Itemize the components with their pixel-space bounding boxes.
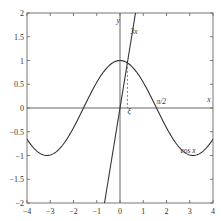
y-tick-label: −1.5 [9, 175, 24, 184]
x-tick-label: −1 [92, 207, 101, 216]
y-tick-label: 1 [20, 57, 24, 66]
x-tick-label: 1 [141, 207, 145, 216]
y-tick-label: −2 [15, 199, 24, 208]
x-tick-label: −2 [69, 207, 78, 216]
x-tick-label: 4 [211, 207, 215, 216]
x-tick-label: −3 [46, 207, 55, 216]
chart-canvas: −4−3−2−101234−2−1.5−1−0.500.511.52ξπ/23x… [0, 0, 222, 221]
x-tick-label: 0 [118, 207, 122, 216]
x-tick-label: −4 [23, 207, 32, 216]
y-tick-label: 0.5 [14, 80, 24, 89]
y-tick-label: 2 [20, 9, 24, 18]
y-axis-label: y [116, 16, 121, 25]
x-tick-label: 3 [188, 207, 192, 216]
x-tick-label: 2 [165, 207, 169, 216]
x-axis-label: x [206, 95, 211, 104]
y-tick-label: −1 [15, 152, 24, 161]
y-tick-label: 1.5 [14, 33, 24, 42]
plot-area: −4−3−2−101234−2−1.5−1−0.500.511.52ξπ/23x… [9, 9, 215, 216]
pi-half-label: π/2 [157, 97, 167, 106]
y-tick-label: 0 [20, 104, 24, 113]
y-tick-label: −0.5 [9, 128, 24, 137]
line-3x-label: 3x [129, 27, 138, 36]
cos-x-label: cos x [180, 146, 196, 155]
